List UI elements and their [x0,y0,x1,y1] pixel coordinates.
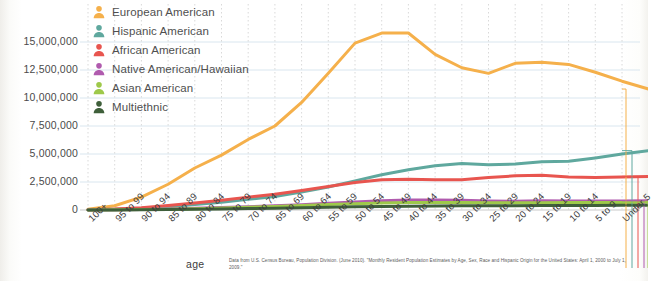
x-tick-label: 65 to 69 [273,191,306,224]
x-tick-label: 15 to 19 [540,191,573,224]
x-tick-label: 35 to 39 [433,191,466,224]
legend-item-label: Multiethnic [112,100,168,114]
x-tick-label: 85 to 89 [166,191,199,224]
person-icon [92,81,106,95]
person-icon [92,62,106,76]
legend-item-label: Native American/Hawaiian [112,62,249,76]
x-tick-label: 80 to 84 [193,191,226,224]
person-icon [92,43,106,57]
x-tick-label: 50 to 54 [353,191,386,224]
legend-item-4: Asian American [92,79,249,97]
person-icon [92,100,106,114]
legend-item-label: European American [112,5,215,19]
x-tick-label: 10 to 14 [567,191,600,224]
legend-item-label: Asian American [112,81,193,95]
legend-item-2: African American [92,41,249,59]
legend-item-1: Hispanic American [92,22,249,40]
legend-item-label: Hispanic American [112,24,209,38]
source-note: Data from U.S. Census Bureau, Population… [229,257,629,271]
legend-item-0: European American [92,3,249,21]
x-tick-label: 100+ [86,200,109,223]
x-tick-label: Under 5 [620,191,653,224]
legend-item-3: Native American/Hawaiian [92,60,249,78]
legend-item-5: Multiethnic [92,98,249,116]
legend-item-label: African American [112,43,201,57]
person-icon [92,24,106,38]
person-icon [92,5,106,19]
x-tick-label: 5 to 9 [593,198,618,223]
x-tick-label: 30 to 34 [460,191,493,224]
chart-legend: European AmericanHispanic AmericanAfrica… [92,3,249,116]
x-tick-label: 75 to 79 [220,191,253,224]
x-tick-label: 25 to 29 [487,191,520,224]
x-axis-title: age [186,258,204,270]
x-tick-label: 60 to 64 [300,191,333,224]
